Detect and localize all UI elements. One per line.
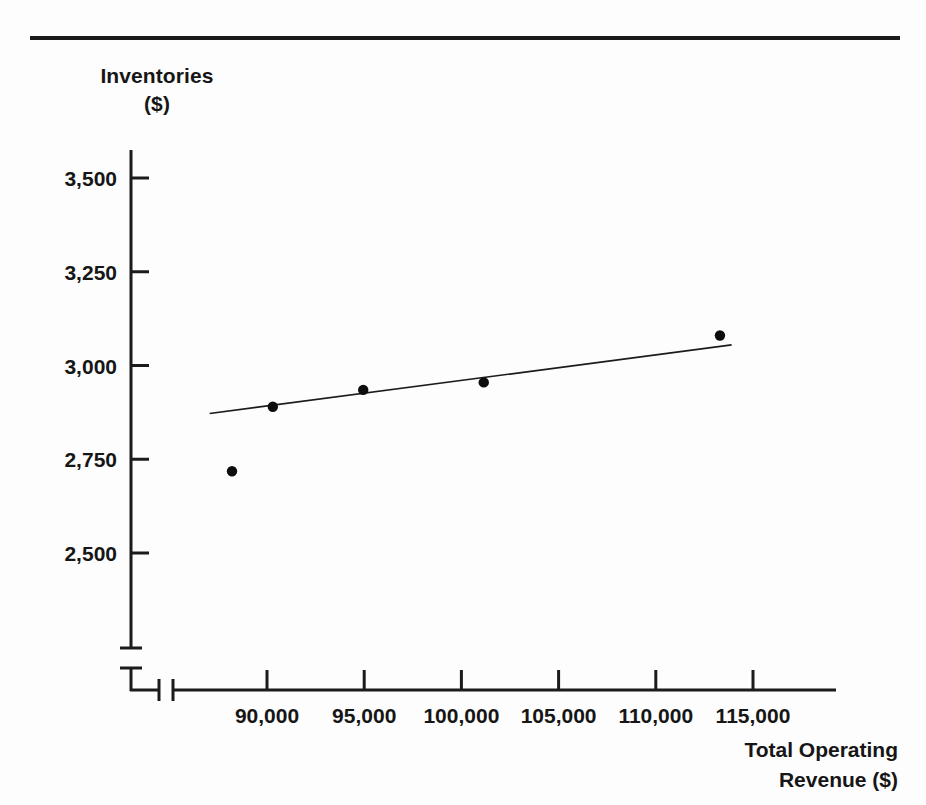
x-tick-label: 105,000: [521, 704, 597, 727]
y-tick-label: 3,500: [64, 167, 117, 190]
regression-trend-line: [210, 345, 732, 414]
data-point: [268, 402, 278, 412]
x-tick-label: 95,000: [332, 704, 396, 727]
y-tick-label: 2,750: [64, 448, 117, 471]
x-axis: 90,00095,000100,000105,000110,000115,000: [130, 670, 836, 727]
y-axis: 2,5002,7503,0003,2503,500: [64, 150, 149, 691]
y-tick-label: 3,000: [64, 355, 117, 378]
scatter-plot-canvas: 2,5002,7503,0003,2503,500 90,00095,00010…: [0, 0, 926, 805]
data-point: [358, 385, 368, 395]
chart-figure: Inventories ($) Total Operating Revenue …: [0, 0, 926, 805]
data-point: [715, 330, 725, 340]
y-tick-label: 2,500: [64, 542, 117, 565]
x-tick-label: 115,000: [716, 704, 791, 727]
y-tick-label: 3,250: [64, 261, 117, 284]
data-points-group: [227, 330, 725, 476]
trend-line-group: [210, 345, 732, 414]
x-tick-label: 100,000: [423, 704, 499, 727]
data-point: [227, 466, 237, 476]
data-point: [479, 377, 489, 387]
x-tick-label: 110,000: [618, 704, 693, 727]
x-tick-label: 90,000: [235, 704, 299, 727]
